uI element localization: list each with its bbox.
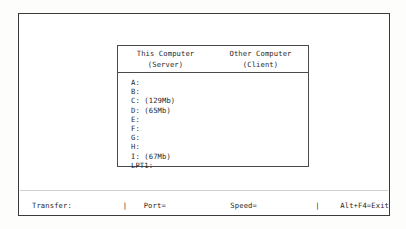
drive-row[interactable]: E: xyxy=(118,115,308,124)
drive-entry-this[interactable]: B: xyxy=(118,87,220,96)
drive-entry-this[interactable]: F: xyxy=(118,124,220,133)
transfer-status-label: Transfer: xyxy=(32,201,120,210)
this-computer-title: This Computer xyxy=(118,49,213,60)
status-divider-1: | xyxy=(120,201,130,210)
drive-row[interactable]: D: (65Mb) xyxy=(118,106,308,115)
drive-row[interactable]: B: xyxy=(118,87,308,96)
port-status-label: Port= xyxy=(130,201,219,210)
drive-entry-other[interactable] xyxy=(220,133,309,142)
status-bar-separator xyxy=(20,190,388,191)
drive-entry-this[interactable]: E: xyxy=(118,115,220,124)
dos-screen-frame: This Computer (Server) Other Computer (C… xyxy=(18,13,390,216)
drive-entry-other[interactable] xyxy=(220,96,309,105)
drive-entry-other[interactable] xyxy=(220,87,309,96)
drive-entry-this[interactable]: G: xyxy=(118,133,220,142)
scanned-page-background: This Computer (Server) Other Computer (C… xyxy=(0,0,406,229)
drive-row[interactable]: A: xyxy=(118,78,308,87)
drive-row[interactable]: LPT1: xyxy=(118,161,308,170)
this-computer-subtitle: (Server) xyxy=(118,60,213,71)
drive-entry-this[interactable]: I: (67Mb) xyxy=(118,152,220,161)
drive-list[interactable]: A: B: C: (129Mb) D: (65Mb) E: xyxy=(118,73,308,170)
drive-entry-other[interactable] xyxy=(220,115,309,124)
drive-entry-this[interactable]: A: xyxy=(118,78,220,87)
drive-entry-this[interactable]: C: (129Mb) xyxy=(118,96,220,105)
drive-entry-other[interactable] xyxy=(220,142,309,151)
exit-hint-label[interactable]: Alt+F4=Exit xyxy=(322,201,389,210)
drive-entry-other[interactable] xyxy=(220,152,309,161)
drive-entry-other[interactable] xyxy=(220,78,309,87)
drive-row[interactable]: H: xyxy=(118,142,308,151)
drive-entry-other[interactable] xyxy=(220,106,309,115)
drive-row[interactable]: F: xyxy=(118,124,308,133)
drive-entry-this[interactable]: H: xyxy=(118,142,220,151)
drive-panel-header: This Computer (Server) Other Computer (C… xyxy=(118,46,308,73)
drive-entry-other[interactable] xyxy=(220,124,309,133)
drive-entry-this[interactable]: LPT1: xyxy=(118,161,220,170)
other-computer-title: Other Computer xyxy=(213,49,308,60)
column-header-other-computer: Other Computer (Client) xyxy=(213,49,308,70)
status-divider-2: | xyxy=(313,201,323,210)
drive-entry-this[interactable]: D: (65Mb) xyxy=(118,106,220,115)
other-computer-subtitle: (Client) xyxy=(213,60,308,71)
status-bar: Transfer: | Port= Speed= | Alt+F4=Exit xyxy=(19,195,389,215)
drive-row[interactable]: G: xyxy=(118,133,308,142)
drive-row[interactable]: C: (129Mb) xyxy=(118,96,308,105)
drive-entry-other[interactable] xyxy=(220,161,309,170)
drive-row[interactable]: I: (67Mb) xyxy=(118,152,308,161)
drive-list-panel: This Computer (Server) Other Computer (C… xyxy=(117,45,309,167)
speed-status-label: Speed= xyxy=(218,201,312,210)
column-header-this-computer: This Computer (Server) xyxy=(118,49,213,70)
